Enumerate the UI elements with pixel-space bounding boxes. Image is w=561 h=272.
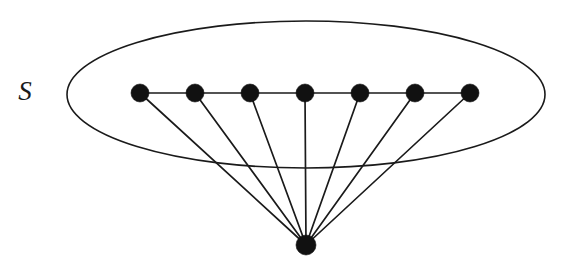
graph-node-s2	[186, 84, 204, 102]
edges-layer	[140, 93, 470, 245]
graph-edge-s7-apex	[306, 93, 470, 245]
set-label-S: S	[18, 76, 32, 106]
graph-edge-s1-apex	[140, 93, 306, 245]
graph-edge-s4-apex	[305, 93, 306, 245]
graph-edge-s6-apex	[306, 93, 415, 245]
graph-node-apex	[296, 235, 316, 255]
graph-node-s5	[351, 84, 369, 102]
graph-edge-s5-apex	[306, 93, 360, 245]
graph-node-s1	[131, 84, 149, 102]
graph-node-s7	[461, 84, 479, 102]
graph-edge-s3-apex	[250, 93, 306, 245]
graph-node-s6	[406, 84, 424, 102]
graph-edge-s2-apex	[195, 93, 306, 245]
graph-diagram: S	[0, 0, 561, 272]
graph-node-s3	[241, 84, 259, 102]
figure-canvas: S	[0, 0, 561, 272]
graph-node-s4	[296, 84, 314, 102]
